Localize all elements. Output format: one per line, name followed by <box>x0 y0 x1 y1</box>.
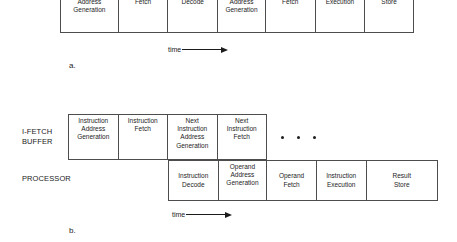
arrow-right-icon <box>182 46 228 53</box>
stage-cell: Operand Address Generation <box>218 0 266 32</box>
diagram-b-time-axis: time <box>172 210 232 219</box>
stage-cell: Instruction Execution <box>316 0 366 32</box>
arrow-right-icon <box>186 211 232 218</box>
ellipsis-dots <box>281 136 316 139</box>
stage-cell: Operand Address Generation <box>219 161 268 200</box>
diagram-b-processor-table: Instruction Decode Operand Address Gener… <box>168 160 438 201</box>
time-axis-label: time <box>172 210 185 219</box>
stage-cell: Next Instruction Fetch <box>218 115 267 159</box>
stage-cell: Operand Fetch <box>267 161 317 200</box>
time-axis-label: time <box>168 45 181 54</box>
diagram-a-caption: a. <box>69 61 76 71</box>
stage-cell: Instruction Decode <box>169 161 219 200</box>
diagram-b-caption: b. <box>69 226 76 236</box>
stage-cell: Operand Fetch <box>266 0 316 32</box>
dot-icon <box>297 136 300 139</box>
diagram-b-ifetch-buffer-table: Instruction Address Generation Instructi… <box>68 114 267 160</box>
dot-icon <box>313 136 316 139</box>
stage-cell: Instruction Address Generation <box>69 115 119 159</box>
stage-cell: Instruction Execution <box>317 161 367 200</box>
dot-icon <box>281 136 284 139</box>
stage-cell: Result Store <box>367 161 437 200</box>
processor-row-label: PROCESSOR <box>22 174 71 184</box>
ifetch-buffer-row-label: I-FETCH BUFFER <box>22 127 53 147</box>
stage-cell: Instruction Address Generation <box>61 0 119 32</box>
stage-cell: Result Store <box>365 0 413 32</box>
stage-cell: Instruction Fetch <box>119 0 169 32</box>
stage-cell: Next Instruction Address Generation <box>168 115 218 159</box>
pipeline-timing-figure: Instruction Address Generation Instructi… <box>0 0 457 242</box>
stage-cell: Instruction Fetch <box>119 115 169 159</box>
diagram-a-time-axis: time <box>168 45 228 54</box>
diagram-a-pipeline-table: Instruction Address Generation Instructi… <box>60 0 414 33</box>
stage-cell: Instruction Decode <box>168 0 218 32</box>
